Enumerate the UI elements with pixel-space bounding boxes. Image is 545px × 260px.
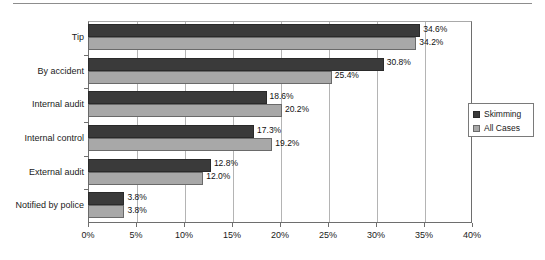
x-axis-tick-label: 15% <box>212 230 252 241</box>
x-axis-tick <box>184 223 185 227</box>
x-axis: 0%5%10%15%20%25%30%35%40% <box>88 223 472 249</box>
bar-group: 30.8%25.4% <box>88 55 472 89</box>
legend-label: All Cases <box>484 123 520 133</box>
y-axis-label: By accident <box>0 66 84 77</box>
bar-group: 34.6%34.2% <box>88 21 472 55</box>
x-axis-tick-label: 20% <box>260 230 300 241</box>
page-top-rule <box>13 3 532 4</box>
bar-value-label: 3.8% <box>127 206 146 215</box>
legend-label: Skimming <box>484 109 521 119</box>
x-axis-tick <box>424 223 425 227</box>
x-axis-tick <box>232 223 233 227</box>
bar-group: 12.8%12.0% <box>88 156 472 190</box>
bar-value-label: 18.6% <box>270 92 294 101</box>
legend-swatch-skimming-icon <box>473 111 480 118</box>
bar-skimming[interactable] <box>88 159 211 172</box>
y-axis-label: Notified by police <box>0 200 84 211</box>
bar-value-label: 30.8% <box>387 58 411 67</box>
x-axis-tick-label: 0% <box>68 230 108 241</box>
bar-all-cases[interactable] <box>88 104 282 117</box>
bar-group: 17.3%19.2% <box>88 122 472 156</box>
bar-value-label: 25.4% <box>335 71 359 80</box>
bar-value-label: 17.3% <box>257 126 281 135</box>
bar-all-cases[interactable] <box>88 138 272 151</box>
y-axis-label: External audit <box>0 167 84 178</box>
legend-item[interactable]: All Cases <box>473 121 533 135</box>
bar-value-label: 3.8% <box>127 193 146 202</box>
y-axis-tick <box>84 122 88 123</box>
bar-group: 3.8%3.8% <box>88 189 472 223</box>
x-axis-tick <box>328 223 329 227</box>
x-axis-tick-label: 30% <box>356 230 396 241</box>
y-axis-label: Internal control <box>0 133 84 144</box>
y-axis-label: Internal audit <box>0 99 84 110</box>
bar-skimming[interactable] <box>88 192 124 205</box>
x-axis-tick-label: 25% <box>308 230 348 241</box>
x-axis-tick-label: 35% <box>404 230 444 241</box>
bar-skimming[interactable] <box>88 125 254 138</box>
y-axis-tick <box>84 156 88 157</box>
x-axis-tick-label: 5% <box>116 230 156 241</box>
y-axis-tick <box>84 55 88 56</box>
y-axis-category-labels: TipBy accidentInternal auditInternal con… <box>0 21 84 223</box>
chart-page: TipBy accidentInternal auditInternal con… <box>0 0 545 260</box>
bar-value-label: 12.8% <box>214 159 238 168</box>
y-axis-tick <box>84 88 88 89</box>
bar-skimming[interactable] <box>88 24 420 37</box>
bar-all-cases[interactable] <box>88 71 332 84</box>
bar-all-cases[interactable] <box>88 37 416 50</box>
legend-swatch-all-cases-icon <box>473 125 480 132</box>
bar-all-cases[interactable] <box>88 172 203 185</box>
bar-value-label: 12.0% <box>206 172 230 181</box>
x-axis-tick <box>376 223 377 227</box>
x-axis-tick <box>88 223 89 227</box>
legend-item[interactable]: Skimming <box>473 107 533 121</box>
y-axis-tick <box>84 189 88 190</box>
bar-value-label: 34.2% <box>419 38 443 47</box>
x-axis-tick <box>280 223 281 227</box>
bar-value-label: 19.2% <box>275 139 299 148</box>
x-axis-tick <box>472 223 473 227</box>
x-axis-tick <box>136 223 137 227</box>
x-axis-tick-label: 40% <box>452 230 492 241</box>
bar-rows: 34.6%34.2%30.8%25.4%18.6%20.2%17.3%19.2%… <box>88 21 472 223</box>
bar-group: 18.6%20.2% <box>88 88 472 122</box>
bar-value-label: 34.6% <box>423 25 447 34</box>
bar-skimming[interactable] <box>88 58 384 71</box>
bar-skimming[interactable] <box>88 91 267 104</box>
x-axis-tick-label: 10% <box>164 230 204 241</box>
chart-legend: SkimmingAll Cases <box>468 103 534 137</box>
y-axis-label: Tip <box>0 32 84 43</box>
bar-value-label: 20.2% <box>285 105 309 114</box>
bar-all-cases[interactable] <box>88 205 124 218</box>
